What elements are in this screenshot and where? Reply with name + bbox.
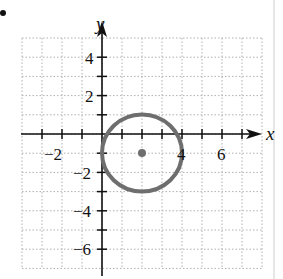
circle-center-point (138, 149, 146, 157)
y-tick-label-neg4: −4 (73, 202, 92, 221)
y-tick-label-neg2: −2 (73, 164, 91, 183)
y-axis-label: y (94, 13, 105, 34)
x-tick-label-neg2: −2 (44, 145, 62, 164)
coordinate-plane: x y −2 4 6 4 2 −2 −4 −6 (0, 0, 283, 279)
x-tick-label-4: 4 (177, 145, 186, 164)
x-axis-label: x (265, 123, 275, 144)
y-tick-label-4: 4 (85, 49, 94, 68)
y-tick-label-2: 2 (85, 87, 94, 106)
x-tick-label-6: 6 (217, 145, 226, 164)
y-tick-label-neg6: −6 (73, 240, 91, 259)
